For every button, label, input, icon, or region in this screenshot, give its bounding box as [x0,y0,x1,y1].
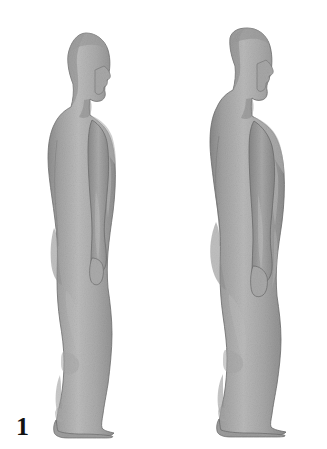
body-silhouette-rating-sheet: 1 [0,0,327,449]
figure-1-body-group [48,33,116,438]
figure-panel-2: 5 [163,0,327,449]
figure-1-scale-label: 1 [16,414,29,440]
figure-panel-1: 1 [0,0,163,449]
figure-5-body-group [210,28,286,437]
human-side-profile-figure-1-icon [0,0,163,449]
human-side-profile-figure-5-icon [163,0,327,449]
